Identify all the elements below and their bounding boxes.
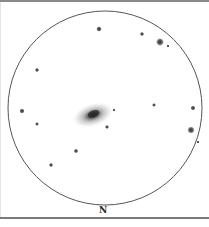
bottom-border-rule <box>0 217 209 219</box>
star <box>19 108 24 113</box>
eyepiece-field-sketch <box>0 0 209 227</box>
star <box>166 44 169 47</box>
star <box>196 140 199 143</box>
star <box>74 149 79 154</box>
star <box>112 108 115 111</box>
star <box>152 103 156 107</box>
star <box>105 125 109 129</box>
star <box>35 68 39 72</box>
star <box>35 122 39 126</box>
star <box>96 26 102 32</box>
star <box>187 126 194 133</box>
star-field <box>19 26 199 167</box>
star <box>191 106 196 111</box>
star <box>140 32 144 36</box>
north-orientation-label: N <box>96 205 110 215</box>
star <box>49 163 53 167</box>
galaxy <box>68 97 117 133</box>
star <box>156 38 164 46</box>
